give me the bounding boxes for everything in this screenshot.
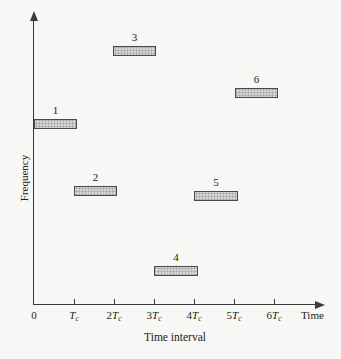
bar-number-label: 5 bbox=[213, 176, 219, 188]
frequency-hop-bar bbox=[154, 266, 198, 276]
x-axis-arrow-icon bbox=[315, 301, 325, 309]
y-axis-label: Frequency bbox=[18, 138, 30, 218]
x-axis-line bbox=[34, 304, 318, 305]
x-axis-tick bbox=[74, 299, 75, 304]
frequency-hop-bar bbox=[74, 186, 117, 196]
x-axis-tick-label: 4Tc bbox=[187, 309, 202, 321]
y-axis-line bbox=[33, 20, 34, 305]
frequency-hop-bar bbox=[235, 88, 278, 98]
x-axis-tick bbox=[114, 299, 115, 304]
frequency-hop-bar bbox=[194, 191, 238, 201]
x-axis-tick bbox=[154, 299, 155, 304]
bar-number-label: 4 bbox=[173, 251, 179, 263]
bar-number-label: 6 bbox=[254, 73, 260, 85]
y-axis-arrow-icon bbox=[30, 11, 38, 21]
x-axis-tick-label: 5Tc bbox=[227, 309, 242, 321]
x-axis-tick-label: 6Tc bbox=[267, 309, 282, 321]
x-axis-tick-label: 0 bbox=[31, 309, 37, 321]
frequency-hop-bar bbox=[113, 46, 156, 56]
bar-number-label: 2 bbox=[93, 171, 99, 183]
bar-number-label: 3 bbox=[132, 31, 138, 43]
x-axis-tick bbox=[274, 299, 275, 304]
frequency-hop-bar bbox=[34, 119, 77, 129]
x-axis-tick bbox=[234, 299, 235, 304]
x-axis-arrow-label: Time bbox=[301, 309, 324, 321]
bar-number-label: 1 bbox=[53, 104, 59, 116]
x-axis-tick bbox=[194, 299, 195, 304]
x-axis-title: Time interval bbox=[144, 331, 206, 343]
x-axis-tick-label: 3Tc bbox=[147, 309, 162, 321]
frequency-hopping-chart: 0Tc2Tc3Tc4Tc5Tc6Tc 123456 Frequency Time… bbox=[0, 0, 341, 359]
x-axis-tick-label: 2Tc bbox=[107, 309, 122, 321]
x-axis-tick-label: Tc bbox=[69, 309, 78, 321]
